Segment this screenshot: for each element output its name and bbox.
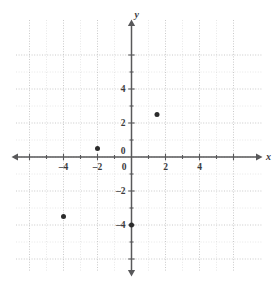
scatter-plot-svg: –4–2024420–2–4 x y — [0, 0, 275, 285]
data-point — [95, 146, 100, 151]
minor-gridlines — [16, 20, 262, 272]
x-axis-label: x — [265, 151, 271, 162]
x-tick-label: –4 — [58, 162, 69, 172]
y-axis-arrow-up — [128, 20, 135, 27]
data-points — [61, 112, 160, 228]
x-tick-label: –2 — [92, 162, 103, 172]
y-tick-label: 2 — [121, 118, 126, 128]
data-point — [129, 223, 134, 228]
y-axis-arrow-down — [128, 270, 135, 277]
y-tick-label: –2 — [115, 186, 126, 196]
major-gridlines — [16, 20, 262, 272]
y-tick-label: 0 — [121, 146, 126, 156]
x-axis-arrow-left — [12, 153, 19, 160]
coordinate-plane-figure: –4–2024420–2–4 x y — [0, 0, 275, 285]
data-point — [155, 112, 160, 117]
y-tick-label: –4 — [115, 220, 126, 230]
y-axis-label: y — [134, 9, 140, 20]
x-tick-label: 0 — [122, 162, 127, 172]
x-tick-label: 4 — [197, 162, 202, 172]
y-tick-label: 4 — [121, 84, 126, 94]
data-point — [61, 214, 66, 219]
x-tick-label: 2 — [163, 162, 168, 172]
axes — [12, 20, 263, 277]
x-axis-arrow-right — [256, 153, 263, 160]
